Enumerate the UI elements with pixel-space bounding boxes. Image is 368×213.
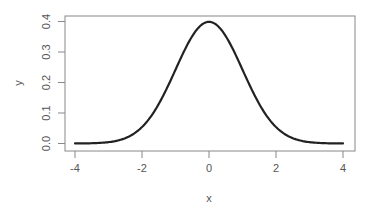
- y-axis: 0.00.10.20.30.4: [40, 14, 65, 151]
- density-plot: 0.00.10.20.30.4 -4-2024 x y: [0, 0, 368, 213]
- y-axis-label: y: [12, 80, 24, 86]
- y-tick-label: 0.4: [40, 14, 52, 29]
- y-tick-label: 0.1: [40, 105, 52, 120]
- x-axis: -4-2024: [70, 151, 346, 174]
- x-tick-label: 2: [273, 162, 279, 174]
- density-curve: [75, 22, 343, 144]
- y-tick-label: 0.3: [40, 44, 52, 59]
- x-tick-label: 4: [340, 162, 346, 174]
- y-tick-label: 0.2: [40, 75, 52, 90]
- x-tick-label: -2: [137, 162, 147, 174]
- y-tick-label: 0.0: [40, 136, 52, 151]
- plot-box: [65, 16, 355, 151]
- x-tick-label: -4: [70, 162, 80, 174]
- x-tick-label: 0: [206, 162, 212, 174]
- x-axis-label: x: [206, 192, 212, 204]
